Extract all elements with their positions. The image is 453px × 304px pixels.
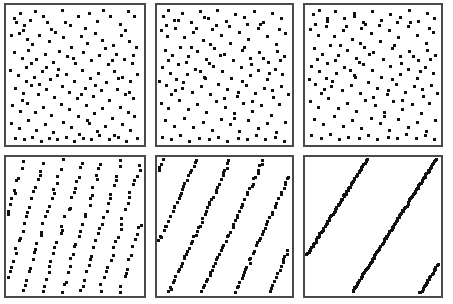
data-point bbox=[191, 91, 194, 94]
data-point bbox=[29, 19, 32, 22]
data-point bbox=[222, 244, 225, 247]
data-point bbox=[117, 236, 120, 239]
data-point bbox=[81, 162, 84, 165]
data-point bbox=[24, 284, 27, 287]
data-point bbox=[157, 239, 160, 242]
data-point bbox=[95, 174, 98, 177]
data-point bbox=[279, 269, 282, 272]
plot-area-top-middle bbox=[157, 5, 292, 145]
data-point bbox=[277, 197, 280, 200]
data-point bbox=[266, 122, 269, 125]
data-point bbox=[50, 114, 53, 117]
data-point bbox=[56, 175, 59, 178]
data-point bbox=[240, 66, 243, 69]
data-point bbox=[223, 53, 226, 56]
data-point bbox=[310, 134, 313, 137]
data-point bbox=[12, 260, 15, 263]
data-point bbox=[22, 29, 25, 32]
data-point bbox=[108, 138, 111, 141]
data-point bbox=[81, 69, 84, 72]
plot-area-bottom-left bbox=[6, 157, 144, 296]
panel-bottom-middle bbox=[155, 155, 294, 298]
data-point bbox=[18, 127, 21, 130]
data-point bbox=[314, 83, 317, 86]
data-point bbox=[161, 136, 164, 139]
data-point bbox=[107, 202, 110, 205]
data-point bbox=[105, 81, 108, 84]
data-point bbox=[88, 264, 91, 267]
data-point bbox=[167, 9, 170, 12]
data-point bbox=[242, 102, 245, 105]
data-point bbox=[11, 104, 14, 107]
data-point bbox=[407, 68, 410, 71]
data-point bbox=[161, 66, 164, 69]
data-point bbox=[70, 126, 73, 129]
data-point bbox=[397, 118, 400, 121]
data-point bbox=[73, 80, 76, 83]
data-point bbox=[234, 219, 237, 222]
data-point bbox=[34, 248, 37, 251]
data-point bbox=[86, 119, 89, 122]
data-point bbox=[41, 222, 44, 225]
data-point bbox=[206, 278, 209, 281]
data-point bbox=[269, 290, 272, 293]
data-point bbox=[355, 57, 358, 60]
data-point bbox=[282, 258, 285, 261]
data-point bbox=[350, 84, 353, 87]
data-point bbox=[69, 265, 72, 268]
data-point bbox=[131, 245, 134, 248]
data-point bbox=[280, 191, 283, 194]
data-point bbox=[134, 238, 137, 241]
data-point bbox=[236, 95, 239, 98]
data-point bbox=[243, 198, 246, 201]
data-point bbox=[31, 136, 34, 139]
data-point bbox=[181, 262, 184, 265]
data-point bbox=[90, 255, 93, 258]
data-point bbox=[274, 136, 277, 139]
data-point bbox=[108, 99, 111, 102]
data-point bbox=[104, 47, 107, 50]
data-point bbox=[127, 258, 130, 261]
data-point bbox=[98, 54, 101, 57]
data-point bbox=[286, 249, 289, 252]
data-point bbox=[81, 223, 84, 226]
data-point bbox=[425, 42, 428, 45]
data-point bbox=[211, 129, 214, 132]
data-point bbox=[15, 21, 18, 24]
data-point bbox=[199, 10, 202, 13]
data-point bbox=[237, 137, 240, 140]
data-point bbox=[366, 158, 369, 161]
data-point bbox=[119, 285, 122, 288]
data-point bbox=[21, 99, 24, 102]
data-point bbox=[192, 126, 195, 129]
data-point bbox=[13, 17, 16, 20]
data-point bbox=[428, 27, 431, 30]
data-point bbox=[25, 66, 28, 69]
data-point bbox=[259, 23, 262, 26]
data-point bbox=[212, 196, 215, 199]
data-point bbox=[194, 68, 197, 71]
panel-top-right bbox=[303, 3, 443, 147]
data-point bbox=[281, 73, 284, 76]
data-point bbox=[238, 31, 241, 34]
data-point bbox=[96, 20, 99, 23]
data-point bbox=[65, 281, 68, 284]
data-point bbox=[247, 38, 250, 41]
data-point bbox=[176, 201, 179, 204]
data-point bbox=[205, 111, 208, 114]
data-point bbox=[40, 140, 43, 143]
data-point bbox=[258, 51, 261, 54]
data-point bbox=[201, 217, 204, 220]
data-point bbox=[9, 69, 12, 72]
data-point bbox=[204, 213, 207, 216]
data-point bbox=[121, 76, 124, 79]
data-point bbox=[173, 205, 176, 208]
data-point bbox=[217, 136, 220, 139]
data-point bbox=[158, 169, 161, 172]
data-point bbox=[61, 9, 64, 12]
data-point bbox=[284, 32, 287, 35]
data-point bbox=[66, 55, 69, 58]
data-point bbox=[99, 163, 102, 166]
data-point bbox=[249, 262, 252, 265]
data-point bbox=[115, 175, 118, 178]
